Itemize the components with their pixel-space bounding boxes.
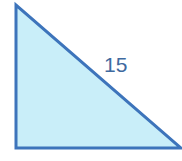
hypotenuse-label: 15: [104, 53, 127, 76]
right-triangle: [16, 5, 181, 148]
diagram-canvas: 15: [0, 0, 182, 161]
